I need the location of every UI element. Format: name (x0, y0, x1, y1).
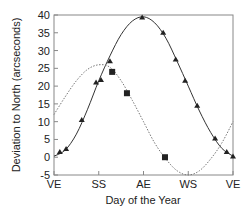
x-tick-label: WS (179, 178, 197, 190)
x-tick-label: VE (47, 178, 62, 190)
y-tick-label: 40 (38, 9, 50, 21)
y-tick-label: 30 (38, 45, 50, 57)
y-tick-label: 20 (38, 80, 50, 92)
x-tick-label: AE (136, 178, 151, 190)
x-tick-label: SS (91, 178, 106, 190)
triangle-marker (194, 103, 200, 108)
y-tick-label: 35 (38, 27, 50, 39)
x-axis: VESSAEWSVE (47, 171, 241, 190)
x-axis-title: Day of the Year (105, 194, 181, 206)
square-marker (124, 90, 130, 96)
y-tick-label: 15 (38, 98, 50, 110)
triangle-marker (57, 149, 63, 154)
fit-curves (54, 17, 233, 175)
y-tick-label: 5 (44, 133, 50, 145)
triangle-marker (182, 78, 188, 83)
y-tick-label: 10 (38, 116, 50, 128)
square-marker (109, 69, 115, 75)
chart: -50510152025303540 VESSAEWSVE Day of the… (0, 0, 250, 216)
square-marker (162, 154, 168, 160)
y-axis-title: Deviation to North (arcseconds) (10, 18, 22, 173)
y-tick-label: 0 (44, 151, 50, 163)
x-tick-label: VE (226, 178, 241, 190)
solid-fit-curve (54, 17, 233, 156)
triangle-marker (173, 56, 179, 61)
plot-frame (54, 15, 233, 175)
triangle-marker (230, 154, 236, 159)
data-markers (57, 14, 236, 160)
plot-border (54, 15, 233, 175)
y-tick-label: 25 (38, 62, 50, 74)
